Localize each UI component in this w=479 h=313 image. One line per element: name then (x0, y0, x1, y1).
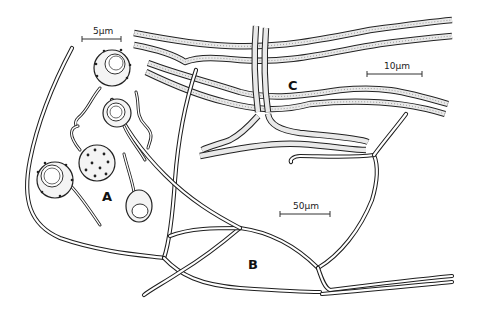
panel-label-c: C (288, 78, 298, 93)
scale-bar-50um (280, 211, 330, 217)
scale-bar-10um (367, 71, 422, 77)
scale-label-50um: 50µm (293, 201, 319, 211)
scale-bar-5um (82, 36, 121, 42)
spore-5 (124, 154, 152, 222)
scale-label-5um: 5µm (93, 26, 113, 36)
panel-label-a: A (102, 189, 112, 204)
panel-c-hypha-branch (200, 114, 368, 156)
scale-label-10um: 10µm (384, 61, 410, 71)
panel-label-b: B (248, 257, 258, 272)
panel-c-hypha-vertical (255, 26, 268, 112)
figure-illustration: 5µm 10µm 50µm A B C (0, 0, 479, 313)
spore-3 (72, 126, 116, 181)
